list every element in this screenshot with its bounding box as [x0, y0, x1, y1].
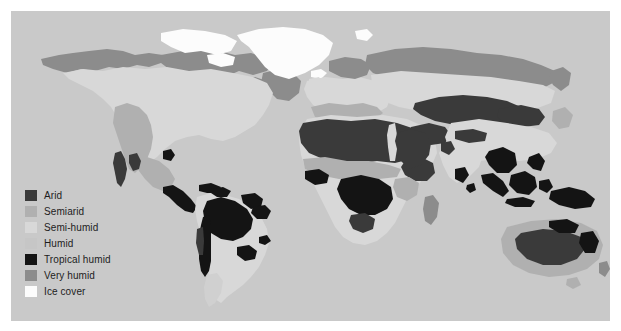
legend-swatch — [25, 238, 37, 249]
world-aridity-figure: AridSemiaridSemi-humidHumidTropical humi… — [0, 0, 621, 331]
legend-swatch — [25, 190, 37, 201]
legend-item: Semiarid — [13, 203, 137, 219]
legend-label: Very humid — [44, 270, 95, 281]
legend-item: Arid — [13, 187, 137, 203]
legend-swatch — [25, 222, 37, 233]
legend-label: Ice cover — [44, 286, 85, 297]
legend-label: Arid — [44, 190, 62, 201]
legend-swatch — [25, 286, 37, 297]
legend-swatch — [25, 254, 37, 265]
legend-label: Semiarid — [44, 206, 84, 217]
legend-label: Humid — [44, 238, 73, 249]
legend-item: Ice cover — [13, 283, 137, 299]
legend-item: Very humid — [13, 267, 137, 283]
legend-label: Semi-humid — [44, 222, 98, 233]
legend-item: Tropical humid — [13, 251, 137, 267]
legend-item: Semi-humid — [13, 219, 137, 235]
legend-swatch — [25, 270, 37, 281]
map-panel: AridSemiaridSemi-humidHumidTropical humi… — [11, 11, 610, 321]
legend-swatch — [25, 206, 37, 217]
legend-item: Humid — [13, 235, 137, 251]
map-legend: AridSemiaridSemi-humidHumidTropical humi… — [13, 183, 137, 303]
legend-label: Tropical humid — [44, 254, 111, 265]
